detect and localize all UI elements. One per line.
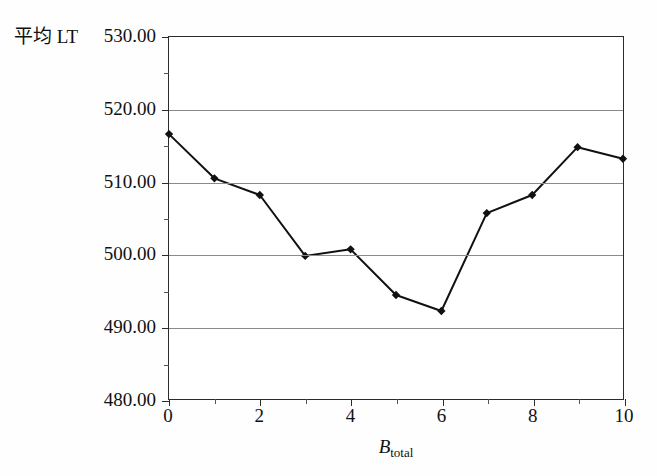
series-line	[169, 134, 623, 311]
x-axis-title-base: B	[379, 436, 391, 457]
x-tick-minor	[397, 399, 398, 404]
data-point-marker	[437, 307, 445, 315]
x-axis-title-subscript: total	[390, 445, 413, 460]
x-tick-minor	[215, 399, 216, 404]
y-tick-label: 510.00	[104, 172, 156, 192]
x-axis-tick-labels: 0246810	[168, 406, 624, 430]
y-tick-label: 500.00	[104, 244, 156, 264]
data-point-marker	[483, 209, 491, 217]
y-tick-major	[162, 110, 169, 111]
y-tick-label: 480.00	[104, 390, 156, 410]
y-tick-major	[162, 401, 169, 402]
y-tick-major	[162, 328, 169, 329]
plot-frame	[168, 36, 624, 400]
y-tick-label: 490.00	[104, 317, 156, 337]
x-tick-minor	[579, 399, 580, 404]
x-tick-label: 0	[163, 406, 173, 426]
y-tick-minor	[164, 146, 169, 147]
y-gridline	[169, 110, 623, 111]
y-gridline	[169, 255, 623, 256]
y-tick-minor	[164, 219, 169, 220]
x-tick-minor	[488, 399, 489, 404]
x-tick-label: 6	[437, 406, 447, 426]
plot-area	[169, 37, 623, 399]
y-tick-minor	[164, 73, 169, 74]
x-tick-label: 10	[615, 406, 634, 426]
y-gridline	[169, 328, 623, 329]
y-tick-label: 520.00	[104, 99, 156, 119]
y-tick-major	[162, 183, 169, 184]
y-gridline	[169, 183, 623, 184]
y-tick-label: 530.00	[104, 26, 156, 46]
series-line-chart	[169, 37, 623, 399]
x-tick-label: 2	[254, 406, 264, 426]
x-tick-label: 8	[528, 406, 538, 426]
x-tick-minor	[306, 399, 307, 404]
y-tick-major	[162, 37, 169, 38]
y-tick-minor	[164, 365, 169, 366]
data-point-marker	[619, 155, 627, 163]
chart-page: 平均 LT 480.00490.00500.00510.00520.00530.…	[0, 0, 657, 476]
y-tick-major	[162, 255, 169, 256]
x-tick-label: 4	[346, 406, 356, 426]
y-axis-tick-labels: 480.00490.00500.00510.00520.00530.00	[52, 36, 156, 400]
x-axis-title: Btotal	[168, 436, 624, 461]
y-tick-minor	[164, 292, 169, 293]
